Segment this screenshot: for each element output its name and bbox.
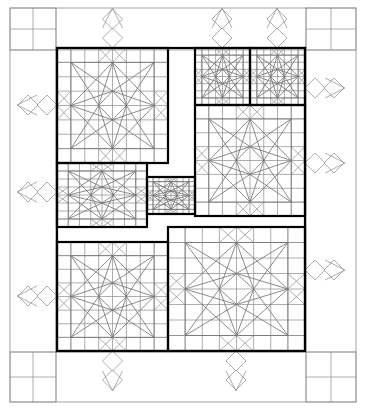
block-top-right-b [250,48,305,105]
block-top-right-a [195,48,250,105]
quilt-diagram-canvas [0,0,366,410]
block-center-small [147,177,195,214]
quilt-svg [0,0,366,410]
